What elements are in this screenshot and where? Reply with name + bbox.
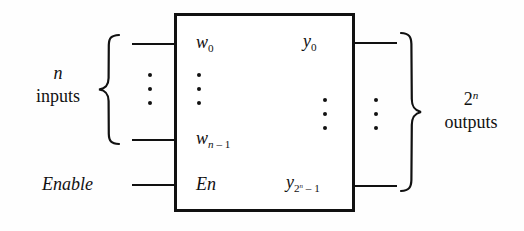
pin-label-w0: w0 bbox=[196, 33, 214, 51]
input-wire-wn-1 bbox=[132, 139, 176, 141]
input-count-annotation: n inputs bbox=[22, 62, 94, 107]
left-inner-ellipsis bbox=[197, 73, 201, 105]
pin-wn-1-base: w bbox=[196, 128, 208, 148]
ellipsis-dot bbox=[374, 98, 378, 102]
pin-wn-1-sub-op: – 1 bbox=[214, 138, 231, 150]
ellipsis-dot bbox=[148, 87, 152, 91]
input-count-symbol-line: n bbox=[22, 62, 94, 85]
ellipsis-dot bbox=[374, 112, 378, 116]
decoder-figure: w0 wn – 1 En y0 y2n – 1 bbox=[0, 0, 524, 231]
output-count-noun-line: outputs bbox=[428, 111, 514, 134]
pin-label-wn-1: wn – 1 bbox=[196, 129, 230, 147]
output-wire-y0 bbox=[353, 42, 397, 44]
output-count-symbol-line: 2n bbox=[428, 88, 514, 111]
ellipsis-dot bbox=[374, 126, 378, 130]
input-count-symbol: n bbox=[54, 63, 63, 83]
enable-annotation: Enable bbox=[42, 175, 93, 193]
enable-label-text: Enable bbox=[42, 174, 93, 194]
left-group-brace bbox=[96, 33, 122, 146]
ellipsis-dot bbox=[148, 73, 152, 77]
input-wire-w0 bbox=[132, 43, 176, 45]
ellipsis-dot bbox=[323, 98, 327, 102]
pin-y0-base: y bbox=[303, 31, 311, 51]
ellipsis-dot bbox=[197, 73, 201, 77]
output-count-exp: n bbox=[473, 89, 479, 101]
ellipsis-dot bbox=[323, 112, 327, 116]
pin-label-y2n-1: y2n – 1 bbox=[286, 173, 320, 191]
pin-w0-sub: 0 bbox=[208, 42, 214, 54]
pin-y2n-1-base: y bbox=[286, 172, 294, 192]
pin-y2n-1-sub-op: – 1 bbox=[303, 182, 320, 194]
right-group-brace bbox=[396, 31, 424, 193]
ellipsis-dot bbox=[197, 87, 201, 91]
pin-en-text: En bbox=[196, 174, 216, 194]
ellipsis-dot bbox=[197, 101, 201, 105]
output-count-annotation: 2n outputs bbox=[428, 88, 514, 133]
pin-label-en: En bbox=[196, 175, 216, 193]
right-outer-ellipsis bbox=[374, 98, 378, 130]
output-count-base: 2 bbox=[464, 89, 473, 109]
pin-y0-sub: 0 bbox=[311, 41, 317, 53]
input-wire-enable bbox=[132, 184, 176, 186]
ellipsis-dot bbox=[148, 101, 152, 105]
pin-w0-base: w bbox=[196, 32, 208, 52]
output-count-noun: outputs bbox=[444, 112, 497, 132]
input-count-noun: inputs bbox=[36, 86, 80, 106]
output-wire-y2n-1 bbox=[353, 185, 397, 187]
ellipsis-dot bbox=[323, 126, 327, 130]
pin-label-y0: y0 bbox=[303, 32, 317, 50]
left-outer-ellipsis bbox=[148, 73, 152, 105]
right-inner-ellipsis bbox=[323, 98, 327, 130]
input-count-noun-line: inputs bbox=[22, 85, 94, 108]
